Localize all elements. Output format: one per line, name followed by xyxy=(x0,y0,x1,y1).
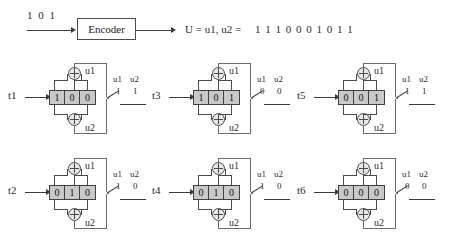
tap-wire xyxy=(81,114,82,120)
tap-wire xyxy=(211,169,212,176)
register-cell: 0 xyxy=(224,186,239,199)
tap-wire xyxy=(376,200,377,210)
output-arrow-icon xyxy=(171,27,176,33)
u1-value: 1 xyxy=(260,181,265,191)
output-wire xyxy=(136,30,172,31)
u1-output-wire xyxy=(363,63,364,69)
tap-wire xyxy=(356,74,357,81)
tap-wire xyxy=(343,80,344,90)
tap-wire xyxy=(54,209,68,210)
u1-node-label: u1 xyxy=(85,161,95,171)
tap-wire xyxy=(343,175,357,176)
u2-output-wire xyxy=(250,99,251,134)
u2-node-label: u2 xyxy=(374,218,384,228)
tap-wire xyxy=(87,105,88,115)
u2-node-label: u2 xyxy=(229,123,239,133)
input-arrow-icon xyxy=(71,27,76,33)
tap-wire xyxy=(370,169,371,176)
stage-input-wire xyxy=(169,192,191,193)
register-cell: 0 xyxy=(50,186,65,199)
tap-wire xyxy=(363,175,364,185)
register-cell: 0 xyxy=(194,186,209,199)
tap-wire xyxy=(231,200,232,210)
output-expression-label: U = u1, u2 = xyxy=(185,24,241,35)
register-cell: 0 xyxy=(339,91,354,104)
switch-output-wire xyxy=(264,104,290,105)
u2-output-wire xyxy=(106,194,107,229)
u2-legend-label: u2 xyxy=(274,74,283,84)
tap-wire xyxy=(231,105,232,115)
register-cell: 0 xyxy=(209,91,224,104)
stage-t4: t4 0 1 0 u1 u2 u1 u2 1 0 xyxy=(152,147,292,239)
u1-output-wire xyxy=(395,158,396,192)
u2-value: 0 xyxy=(277,181,282,191)
output-bits-label: 1 1 1 0 0 0 1 0 1 1 xyxy=(255,24,354,35)
u2-node-label: u2 xyxy=(85,218,95,228)
u2-output-wire xyxy=(363,228,396,229)
tap-wire xyxy=(376,175,377,185)
stage-input-wire xyxy=(25,97,47,98)
tap-wire xyxy=(54,114,68,115)
u2-output-wire xyxy=(395,194,396,229)
u1-output-wire xyxy=(106,158,107,192)
stage-input-wire xyxy=(169,97,191,98)
u1-output-wire xyxy=(74,63,107,64)
switch-output-wire xyxy=(120,104,146,105)
u1-output-wire xyxy=(363,158,396,159)
stage-input-wire xyxy=(25,192,47,193)
u1-output-wire xyxy=(218,63,251,64)
u2-value: 1 xyxy=(422,86,427,96)
stage-time-label: t1 xyxy=(8,90,17,101)
u1-output-wire xyxy=(218,158,251,159)
input-bits-label: 1 0 1 xyxy=(27,10,57,21)
tap-wire xyxy=(54,80,68,81)
u1-output-wire xyxy=(363,158,364,164)
shift-register: 1 0 0 xyxy=(49,90,96,105)
u2-output-wire xyxy=(74,221,75,229)
u2-legend-label: u2 xyxy=(419,169,428,179)
register-cell: 0 xyxy=(80,186,95,199)
u1-value: 0 xyxy=(260,86,265,96)
register-cell: 1 xyxy=(194,91,209,104)
u2-output-wire xyxy=(74,228,107,229)
register-cell: 1 xyxy=(65,186,80,199)
tap-wire xyxy=(81,169,82,176)
u1-output-wire xyxy=(250,63,251,97)
u1-node-label: u1 xyxy=(229,161,239,171)
u1-value: 1 xyxy=(116,181,121,191)
register-cell: 0 xyxy=(80,91,95,104)
u1-value: 1 xyxy=(116,86,121,96)
tap-wire xyxy=(356,114,357,120)
tap-wire xyxy=(225,209,226,215)
u2-output-wire xyxy=(74,126,75,134)
u1-output-wire xyxy=(218,63,219,69)
stage-time-label: t5 xyxy=(297,90,306,101)
shift-register: 0 1 0 xyxy=(193,185,240,200)
u1-output-wire xyxy=(218,158,219,164)
u2-value: 0 xyxy=(133,181,138,191)
tap-wire xyxy=(198,114,212,115)
stage-time-label: t4 xyxy=(152,185,161,196)
register-cell: 1 xyxy=(50,91,65,104)
u2-legend-label: u2 xyxy=(130,169,139,179)
stage-time-label: t6 xyxy=(297,185,306,196)
u2-node-label: u2 xyxy=(229,218,239,228)
stage-t6: t6 0 0 0 u1 u2 u1 u2 0 0 xyxy=(297,147,437,239)
switch-output-wire xyxy=(409,104,435,105)
stage-t2: t2 0 1 0 u1 u2 u1 u2 1 0 xyxy=(8,147,148,239)
u1-legend-label: u1 xyxy=(113,74,122,84)
u1-value: 1 xyxy=(405,86,410,96)
register-cell: 0 xyxy=(339,186,354,199)
u1-output-wire xyxy=(106,63,107,97)
encoder-box: Encoder xyxy=(77,18,136,40)
u2-output-wire xyxy=(363,221,364,229)
u1-node-label: u1 xyxy=(374,161,384,171)
u2-output-wire xyxy=(363,133,396,134)
register-cell: 1 xyxy=(224,91,239,104)
u1-output-wire xyxy=(395,63,396,97)
tap-wire xyxy=(67,209,68,215)
tap-wire xyxy=(54,80,55,90)
stage-time-label: t2 xyxy=(8,185,17,196)
shift-register: 0 1 0 xyxy=(49,185,96,200)
tap-wire xyxy=(225,74,226,81)
